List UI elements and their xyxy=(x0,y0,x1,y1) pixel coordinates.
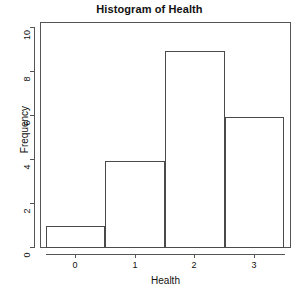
x-axis-tick-label: 2 xyxy=(184,260,204,270)
x-axis-tick xyxy=(194,254,195,258)
x-axis-line xyxy=(46,254,285,255)
histogram-bar xyxy=(46,226,105,248)
y-axis-tick-label: 10 xyxy=(22,27,32,43)
histogram-bar xyxy=(165,51,225,248)
histogram-bar xyxy=(105,161,165,248)
chart-title: Histogram of Health xyxy=(0,3,299,15)
x-axis-title: Health xyxy=(40,275,291,286)
y-axis-tick-label: 0 xyxy=(22,247,32,263)
histogram-figure: Histogram of Health 0 2 4 6 8 10 0 1 2 3… xyxy=(0,0,299,293)
x-axis-tick-label: 3 xyxy=(244,260,264,270)
x-axis-tick xyxy=(254,254,255,258)
x-axis-tick xyxy=(75,254,76,258)
x-axis-tick-label: 1 xyxy=(125,260,145,270)
x-axis-tick-label: 0 xyxy=(65,260,85,270)
y-axis-line xyxy=(34,27,35,248)
y-axis-title: Frequency xyxy=(19,70,30,190)
y-axis-tick-label: 2 xyxy=(22,203,32,219)
x-axis-tick xyxy=(135,254,136,258)
histogram-bar xyxy=(225,117,284,248)
